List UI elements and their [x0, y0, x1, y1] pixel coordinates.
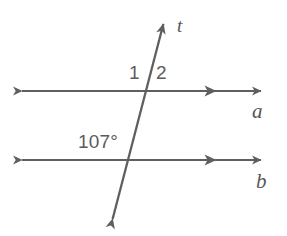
line-a-group: [22, 86, 261, 97]
geometry-figure: t 1 2 a 107° b: [0, 0, 287, 236]
label-angle-measure-107: 107°: [78, 132, 118, 151]
label-line-b: b: [256, 171, 267, 192]
label-line-a: a: [252, 101, 263, 122]
geometry-canvas: [0, 0, 287, 236]
label-transversal-t: t: [177, 16, 182, 35]
label-angle-2: 2: [156, 63, 167, 82]
transversal-segment: [113, 24, 164, 219]
line-b-group: [22, 155, 261, 166]
label-angle-1: 1: [129, 63, 140, 82]
line-t-group: [113, 24, 164, 219]
